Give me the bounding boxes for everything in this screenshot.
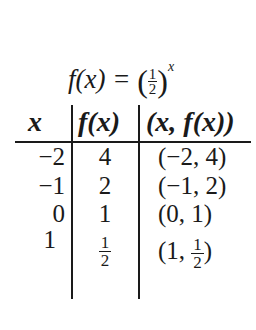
table-row-1-pair: (−2, 4)	[158, 143, 226, 171]
table-row-3-fx: 1	[80, 200, 130, 228]
title-close-paren: )	[157, 63, 168, 99]
column-divider-2	[138, 105, 140, 299]
table-row-2-pair: (−1, 2)	[158, 172, 226, 200]
title-open-paren: (	[137, 63, 148, 99]
table-row-4-x: 1	[20, 226, 56, 254]
header-x: x	[28, 106, 42, 138]
table-row-2-fx: 2	[80, 172, 130, 200]
table-row-2-x: −1	[20, 172, 65, 200]
fraction: 12	[99, 234, 112, 269]
table-row-4-fx: 12	[80, 234, 130, 269]
function-title: f(x) = (12)x	[68, 63, 174, 100]
title-lhs: f(x) =	[68, 64, 130, 94]
table-row-4-pair: (1, 12)	[158, 236, 212, 271]
table-row-1-x: −2	[20, 143, 65, 171]
column-divider-1	[71, 105, 73, 299]
header-pair: (x, f(x))	[146, 106, 235, 138]
table-row-3-pair: (0, 1)	[158, 200, 212, 228]
title-base-fraction: 12	[148, 67, 158, 96]
header-fx: f(x)	[78, 106, 120, 138]
table-row-3-x: 0	[20, 200, 65, 228]
fraction: 12	[191, 236, 204, 271]
title-exponent: x	[168, 59, 174, 74]
table-row-1-fx: 4	[80, 143, 130, 171]
